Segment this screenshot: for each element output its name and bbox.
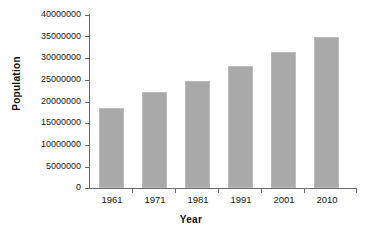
bar-2001 <box>271 52 296 188</box>
x-axis-label-1961: 1961 <box>91 194 133 205</box>
bar-1971 <box>142 92 167 188</box>
bar-2010 <box>314 37 339 188</box>
population-bar-chart: 40000000 35000000 30000000 25000000 2000… <box>0 0 382 234</box>
x-axis-tick <box>356 188 357 193</box>
y-axis-title: Population <box>11 24 22 144</box>
bar-1991 <box>228 66 253 188</box>
y-axis-tick-label: 0 <box>0 182 89 194</box>
x-axis-label-1971: 1971 <box>134 194 176 205</box>
y-axis-tick-label: 5000000 <box>0 161 89 173</box>
x-axis-tick <box>218 188 219 193</box>
x-axis-title: Year <box>0 214 382 225</box>
x-axis-tick <box>175 188 176 193</box>
x-axis-label-2010: 2010 <box>306 194 348 205</box>
y-axis-tick-label: 40000000 <box>0 9 89 21</box>
x-axis-tick <box>261 188 262 193</box>
x-axis-tick <box>304 188 305 193</box>
bar-1961 <box>99 108 124 188</box>
x-axis-tick <box>132 188 133 193</box>
x-axis-label-2001: 2001 <box>263 194 305 205</box>
bar-1981 <box>185 81 210 188</box>
x-axis-label-1991: 1991 <box>220 194 262 205</box>
x-axis-label-1981: 1981 <box>177 194 219 205</box>
y-axis-line <box>89 14 90 189</box>
x-axis-line <box>89 188 356 189</box>
